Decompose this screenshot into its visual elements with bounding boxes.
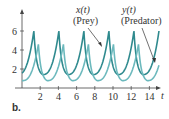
predator-annotation-arrow: [142, 28, 154, 60]
x-tick-label: 6: [74, 91, 79, 102]
prey-annotation-arrow: [88, 28, 101, 45]
predator-prey-chart: 2468101214 246 t x(t) (Prey) y(t) (Preda…: [0, 0, 169, 119]
x-tick-label: 4: [56, 91, 61, 102]
x-axis-label: t: [161, 90, 164, 101]
y-tick-label: 4: [12, 45, 17, 56]
panel-label: b.: [12, 102, 21, 113]
y-axis-arrow-icon: [20, 9, 24, 14]
predator-curve: [22, 44, 159, 80]
y-tick-label: 2: [12, 64, 17, 75]
x-tick-label: 8: [92, 91, 97, 102]
predator-annotation-line2: (Predator): [121, 15, 162, 27]
x-tick-label: 2: [38, 91, 43, 102]
x-tick-label: 12: [126, 91, 136, 102]
x-tick-label: 14: [144, 91, 154, 102]
prey-annotation-line2: (Prey): [73, 15, 98, 27]
y-tick-label: 6: [12, 26, 17, 37]
prey-arrowhead-icon: [98, 42, 102, 47]
x-tick-label: 10: [108, 91, 118, 102]
